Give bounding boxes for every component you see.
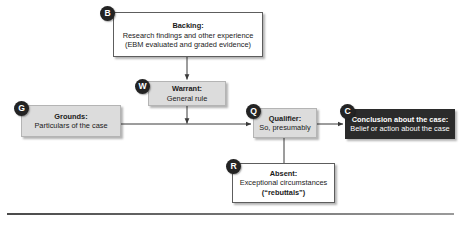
node-conclusion-line-1: Belief or action about the case (350, 124, 449, 133)
node-grounds[interactable]: Grounds: Particulars of the case (21, 105, 121, 137)
node-conclusion[interactable]: Conclusion about the case: Belief or act… (345, 109, 455, 139)
node-qualifier-title: Qualifier: (269, 114, 301, 123)
badge-absent: R (226, 159, 241, 174)
badge-qualifier: Q (246, 104, 261, 119)
node-absent-title: Absent: (270, 169, 298, 178)
node-conclusion-title: Conclusion about the case: (352, 115, 449, 124)
node-absent[interactable]: Absent: Exceptional circumstances (“rebu… (232, 163, 335, 203)
node-warrant-title: Warrant: (172, 84, 202, 93)
badge-conclusion: C (340, 104, 355, 119)
badge-grounds: G (14, 101, 29, 116)
node-qualifier-line-1: So, presumably (259, 123, 310, 132)
node-backing-line-2: (EBM evaluated and graded evidence) (125, 40, 251, 49)
node-backing-line-1: Research findings and other experience (123, 31, 254, 40)
node-absent-line-2: (“rebuttals”) (262, 188, 306, 197)
node-backing-title: Backing: (172, 21, 203, 30)
node-backing[interactable]: Backing: Research findings and other exp… (113, 12, 263, 57)
node-qualifier[interactable]: Qualifier: So, presumably (253, 108, 317, 138)
node-grounds-title: Grounds: (54, 112, 87, 121)
node-warrant-line-1: General rule (167, 94, 208, 103)
node-absent-line-1: Exceptional circumstances (240, 178, 328, 187)
node-grounds-line-1: Particulars of the case (34, 121, 107, 130)
bottom-divider (7, 213, 454, 215)
node-warrant[interactable]: Warrant: General rule (148, 81, 226, 106)
diagram-canvas: Backing: Research findings and other exp… (0, 0, 461, 225)
badge-warrant: W (135, 79, 150, 94)
badge-backing: B (100, 6, 115, 21)
